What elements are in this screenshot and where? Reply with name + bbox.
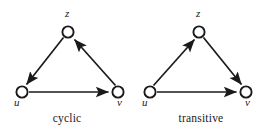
edge-v-to-z: [75, 40, 116, 86]
node-label-v: v: [245, 97, 250, 108]
edge-u-to-z: [154, 40, 195, 86]
edge-z-to-u: [27, 38, 64, 85]
edge-z-to-v: [204, 38, 242, 85]
panel-cyclic: u z v cyclic: [0, 0, 134, 135]
figure-directed-graph-comparison: u z v cyclic u z v transitive: [0, 0, 268, 135]
node-z: [193, 26, 204, 37]
caption-cyclic: cyclic: [0, 112, 134, 124]
node-label-u: u: [142, 97, 148, 108]
node-label-z: z: [65, 8, 69, 19]
node-label-v: v: [117, 97, 122, 108]
node-label-z: z: [196, 8, 200, 19]
node-label-u: u: [14, 97, 20, 108]
caption-transitive: transitive: [134, 112, 268, 124]
panel-transitive: u z v transitive: [134, 0, 268, 135]
node-z: [62, 26, 73, 37]
